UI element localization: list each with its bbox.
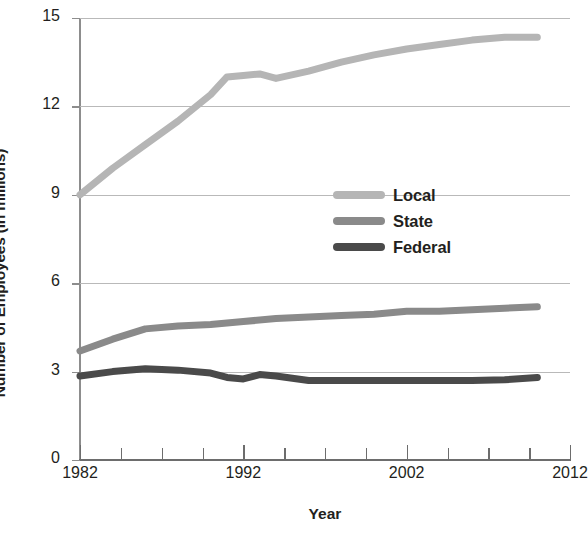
gridline-y-15 bbox=[80, 18, 570, 19]
legend-label-federal: Federal bbox=[393, 238, 451, 257]
x-tick-label-2012: 2012 bbox=[530, 464, 588, 482]
y-tick-6 bbox=[72, 283, 80, 284]
y-tick-9 bbox=[72, 195, 80, 196]
x-tick-label-2002: 2002 bbox=[367, 464, 447, 482]
x-tick-label-1982: 1982 bbox=[40, 464, 120, 482]
y-tick-label-12: 12 bbox=[20, 95, 60, 113]
x-tick-label-1992: 1992 bbox=[203, 464, 283, 482]
y-tick-label-15: 15 bbox=[20, 7, 60, 25]
plot-area bbox=[80, 18, 570, 460]
legend-label-state: State bbox=[393, 212, 433, 231]
gridline-y-6 bbox=[80, 283, 570, 284]
gridline-y-9 bbox=[80, 195, 570, 196]
x-tick-minor bbox=[366, 448, 367, 459]
x-tick-minor bbox=[284, 448, 285, 459]
gridline-y-3 bbox=[80, 372, 570, 373]
y-tick-label-9: 9 bbox=[20, 184, 60, 202]
y-tick-12 bbox=[72, 106, 80, 107]
x-tick-minor bbox=[448, 448, 449, 459]
gridline-y-12 bbox=[80, 106, 570, 107]
x-tick-minor bbox=[325, 448, 326, 459]
x-tick-2002 bbox=[407, 445, 408, 459]
x-tick-minor bbox=[529, 448, 530, 459]
x-tick-minor bbox=[162, 448, 163, 459]
x-tick-minor bbox=[488, 448, 489, 459]
y-tick-label-6: 6 bbox=[20, 272, 60, 290]
y-tick-label-3: 3 bbox=[20, 361, 60, 379]
legend-swatch-state bbox=[333, 217, 385, 225]
x-axis-title: Year bbox=[80, 505, 570, 523]
legend-swatch-federal bbox=[333, 243, 385, 251]
legend-item-federal[interactable]: Federal bbox=[333, 234, 451, 260]
legend-label-local: Local bbox=[393, 186, 436, 205]
x-tick-2012 bbox=[570, 445, 571, 459]
y-tick-3 bbox=[72, 372, 80, 373]
legend-item-state[interactable]: State bbox=[333, 208, 451, 234]
chart-legend: LocalStateFederal bbox=[333, 182, 451, 260]
x-tick-minor bbox=[121, 448, 122, 459]
legend-item-local[interactable]: Local bbox=[333, 182, 451, 208]
x-tick-1992 bbox=[243, 445, 244, 459]
legend-swatch-local bbox=[333, 191, 385, 199]
x-tick-minor bbox=[203, 448, 204, 459]
y-tick-0 bbox=[72, 460, 80, 461]
x-tick-1982 bbox=[80, 445, 81, 459]
line-chart: Number of Employees (in millions) 036912… bbox=[0, 0, 588, 546]
y-tick-15 bbox=[72, 18, 80, 19]
